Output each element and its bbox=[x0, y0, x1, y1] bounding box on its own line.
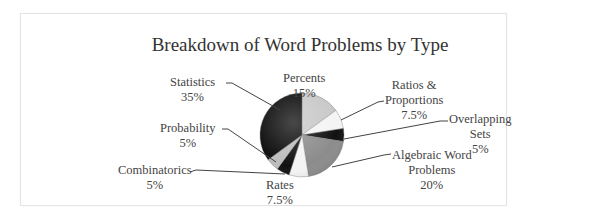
label-statistics-name: Statistics bbox=[170, 75, 215, 90]
label-probability-name: Probability bbox=[160, 121, 216, 136]
label-ratios-line1: Ratios & bbox=[385, 78, 443, 93]
leader-algebraic bbox=[332, 154, 391, 167]
label-probability: Probability 5% bbox=[160, 121, 216, 151]
label-rates: Rates 7.5% bbox=[266, 178, 294, 208]
label-algebraic-pct: 20% bbox=[392, 178, 472, 193]
leader-overlapping bbox=[344, 121, 448, 139]
label-combinatorics-pct: 5% bbox=[118, 178, 192, 193]
leader-combinatorics bbox=[190, 170, 285, 174]
label-probability-pct: 5% bbox=[160, 136, 216, 151]
label-statistics-pct: 35% bbox=[170, 90, 215, 105]
label-rates-pct: 7.5% bbox=[266, 193, 294, 208]
pie-chart bbox=[0, 0, 600, 217]
label-percents: Percents 15% bbox=[283, 71, 325, 101]
label-rates-name: Rates bbox=[266, 178, 294, 193]
label-percents-pct: 15% bbox=[283, 86, 325, 101]
label-overlapping-line2: Sets bbox=[449, 127, 511, 142]
label-algebraic-line2: Problems bbox=[392, 163, 472, 178]
leader-statistics bbox=[226, 83, 280, 110]
label-overlapping-line1: Overlapping bbox=[449, 112, 511, 127]
label-algebraic: Algebraic Word Problems 20% bbox=[392, 148, 472, 193]
label-ratios-pct: 7.5% bbox=[385, 108, 443, 123]
label-statistics: Statistics 35% bbox=[170, 75, 215, 105]
label-combinatorics-name: Combinatorics bbox=[118, 163, 192, 178]
label-ratios-line2: Proportions bbox=[385, 93, 443, 108]
leader-ratios bbox=[341, 101, 384, 120]
label-algebraic-line1: Algebraic Word bbox=[392, 148, 472, 163]
label-combinatorics: Combinatorics 5% bbox=[118, 163, 192, 193]
label-ratios: Ratios & Proportions 7.5% bbox=[385, 78, 443, 123]
label-percents-name: Percents bbox=[283, 71, 325, 86]
